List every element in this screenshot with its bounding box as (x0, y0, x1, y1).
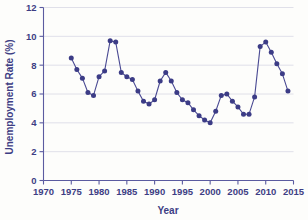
data-point-marker (180, 97, 185, 102)
data-point-marker (224, 92, 229, 97)
y-tick-label: 4 (31, 117, 37, 128)
data-point-marker (197, 113, 202, 118)
data-point-marker (135, 89, 140, 94)
y-axis-ticks-group (40, 8, 44, 181)
y-tick-label: 12 (26, 2, 37, 13)
data-point-marker (219, 93, 224, 98)
x-tick-label: 2000 (200, 186, 221, 197)
data-point-marker (247, 112, 252, 117)
data-point-marker (208, 120, 213, 125)
data-point-marker (147, 102, 152, 107)
data-point-marker (152, 97, 157, 102)
data-point-marker (97, 74, 102, 79)
data-point-marker (130, 77, 135, 82)
x-tick-label: 2010 (255, 186, 276, 197)
data-point-marker (158, 79, 163, 84)
data-point-marker (263, 40, 268, 45)
chart-figure: 024681012 197019751980198519901995200020… (0, 0, 308, 220)
data-point-marker (235, 104, 240, 109)
y-tick-label: 10 (26, 31, 37, 42)
x-axis-title: Year (157, 205, 178, 216)
x-tick-label: 1980 (88, 186, 109, 197)
data-point-marker (174, 90, 179, 95)
data-point-marker (191, 107, 196, 112)
x-tick-label: 2015 (283, 186, 305, 197)
x-tick-label: 1975 (61, 186, 83, 197)
data-point-marker (113, 40, 118, 45)
data-point-marker (69, 55, 74, 60)
y-tick-label: 8 (31, 60, 36, 71)
unemployment-series-line (71, 41, 288, 123)
data-point-marker (91, 93, 96, 98)
y-tick-labels-group: 024681012 (26, 2, 37, 186)
data-point-marker (230, 99, 235, 104)
y-tick-label: 2 (31, 146, 36, 157)
data-point-marker (258, 44, 263, 49)
x-axis-ticks-group (44, 181, 294, 185)
data-point-marker (274, 61, 279, 66)
x-tick-labels-group: 1970197519801985199019952000200520102015 (33, 186, 305, 197)
data-point-marker (124, 74, 129, 79)
x-tick-label: 1995 (172, 186, 194, 197)
data-point-marker (285, 89, 290, 94)
data-point-marker (80, 76, 85, 81)
data-point-marker (280, 71, 285, 76)
y-tick-label: 0 (31, 175, 36, 186)
data-point-marker (169, 79, 174, 84)
data-point-marker (213, 109, 218, 114)
x-tick-label: 1990 (144, 186, 165, 197)
y-tick-label: 6 (31, 88, 36, 99)
data-point-marker (185, 100, 190, 105)
data-point-marker (241, 112, 246, 117)
data-point-marker (85, 90, 90, 95)
x-tick-label: 1970 (33, 186, 54, 197)
y-axis-title: Unemployment Rate (%) (4, 39, 15, 154)
data-point-marker (252, 94, 257, 99)
data-point-marker (108, 38, 113, 43)
data-point-markers-group (69, 38, 291, 125)
data-point-marker (102, 68, 107, 73)
data-point-marker (119, 70, 124, 75)
data-point-marker (269, 50, 274, 55)
data-point-marker (141, 99, 146, 104)
data-point-marker (74, 67, 79, 72)
data-point-marker (202, 117, 207, 122)
x-tick-label: 1985 (116, 186, 138, 197)
data-point-marker (163, 70, 168, 75)
x-tick-label: 2005 (227, 186, 249, 197)
unemployment-rate-line-chart: 024681012 197019751980198519901995200020… (0, 0, 308, 220)
